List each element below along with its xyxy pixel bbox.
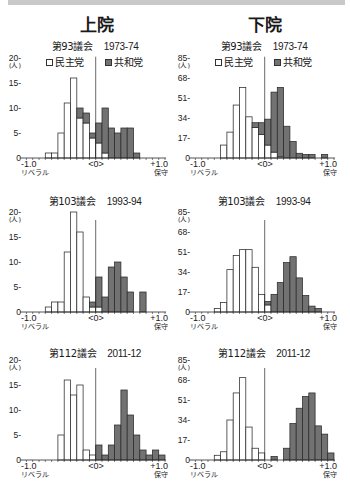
rep-bar <box>96 277 102 307</box>
rep-bar <box>315 426 321 460</box>
dem-bar <box>221 452 227 460</box>
dem-bar <box>52 302 58 312</box>
x-min-label: -1.0 <box>21 462 37 471</box>
dem-bar <box>271 152 277 158</box>
dem-bar <box>45 153 51 158</box>
dem-bar <box>89 455 95 460</box>
y-tick-label: 68- <box>178 73 190 83</box>
dem-bar <box>240 250 246 312</box>
liberal-caption: リベラル <box>21 471 49 479</box>
y-unit-label: (人) <box>9 364 21 372</box>
y-unit-label: (人) <box>9 216 21 224</box>
rep-bar <box>321 154 327 158</box>
rep-bar <box>271 294 277 312</box>
rep-bar <box>108 267 114 312</box>
x-max-label: +1.0 <box>319 462 337 471</box>
rep-bar <box>296 278 302 312</box>
y-tick-label: 34- <box>178 267 190 277</box>
x-max-label: +1.0 <box>150 160 168 169</box>
y-tick-label: 34- <box>178 415 190 425</box>
rep-bar <box>309 393 315 460</box>
dem-bar <box>58 302 64 312</box>
x-max-label: +1.0 <box>319 314 337 323</box>
rep-bar <box>140 450 146 460</box>
senate-heading: 上院 <box>57 14 137 36</box>
dem-bar <box>227 132 233 158</box>
rep-bar <box>127 292 133 312</box>
x-max-label: +1.0 <box>319 160 337 169</box>
dem-bar <box>258 294 264 312</box>
x-center-label: <0> <box>88 462 104 471</box>
conservative-caption: 保守 <box>154 471 168 479</box>
conservative-caption: 保守 <box>323 323 337 331</box>
house-103-chart: 第103議会1993-94 017-34-51-68-85-(人) -1.0 <… <box>169 192 344 337</box>
x-min-label: -1.0 <box>190 314 206 323</box>
y-tick-label: 17- <box>178 435 190 445</box>
rep-bar <box>121 277 127 312</box>
y-tick-label: 5- <box>13 282 21 292</box>
rep-bar <box>108 445 114 460</box>
rep-bar <box>121 128 127 158</box>
rep-bar <box>271 456 277 460</box>
dem-bar <box>221 145 227 158</box>
rep-bar <box>303 154 309 158</box>
dem-bar <box>64 380 70 460</box>
rep-bar <box>127 128 133 158</box>
rep-bar <box>290 424 296 460</box>
dem-bar <box>45 307 51 312</box>
rep-bar <box>115 425 121 460</box>
house-93-chart: 第93議会1973-74 民主党 共和党 017-34-51-68-85-(人)… <box>169 38 344 183</box>
dem-bar <box>64 252 70 312</box>
rep-bar <box>321 434 327 460</box>
dem-bar <box>89 138 95 158</box>
rep-bar <box>265 119 271 145</box>
dem-bar <box>258 134 264 158</box>
senate-103-chart: 第103議会1993-94 05-10-15-20-(人) -1.0 <0> +… <box>0 192 175 337</box>
rep-bar <box>77 108 83 118</box>
rep-bar <box>328 453 334 460</box>
rep-bar <box>96 123 102 143</box>
y-tick-label: 51- <box>178 93 190 103</box>
dem-bar <box>221 303 227 312</box>
conservative-caption: 保守 <box>154 169 168 177</box>
rep-bar <box>284 448 290 460</box>
dem-bar <box>52 153 58 158</box>
rep-bar <box>284 126 290 158</box>
dem-bar <box>246 427 252 460</box>
y-tick-label: 51- <box>178 395 190 405</box>
rep-bar <box>134 435 140 460</box>
rep-bar <box>303 296 309 312</box>
dem-bar <box>96 143 102 158</box>
rep-bar <box>140 292 146 312</box>
rep-bar <box>96 445 102 460</box>
dem-bar <box>77 232 83 312</box>
rep-bar <box>303 396 309 460</box>
dem-bar <box>83 297 89 312</box>
y-tick-label: 5- <box>13 128 21 138</box>
x-max-label: +1.0 <box>150 462 168 471</box>
dem-bar <box>265 305 271 312</box>
rep-bar <box>102 108 108 153</box>
y-unit-label: (人) <box>178 364 190 372</box>
rep-bar <box>146 455 152 460</box>
y-tick-label: 5- <box>13 430 21 440</box>
rep-bar <box>290 142 296 158</box>
rep-bar <box>127 415 133 460</box>
dem-bar <box>214 455 220 460</box>
conservative-caption: 保守 <box>323 169 337 177</box>
liberal-caption: リベラル <box>21 169 49 177</box>
x-center-label: <0> <box>257 462 273 471</box>
dem-bar <box>83 123 89 158</box>
dem-bar <box>252 448 258 460</box>
rep-bar <box>121 390 127 460</box>
dem-bar <box>58 133 64 158</box>
x-center-label: <0> <box>88 314 104 323</box>
rep-bar <box>102 455 108 460</box>
y-tick-label: 15- <box>9 78 21 88</box>
top-strip <box>8 0 345 5</box>
rep-bar <box>252 123 258 128</box>
dem-bar <box>265 145 271 158</box>
x-min-label: -1.0 <box>190 160 206 169</box>
rep-bar <box>89 133 95 138</box>
rep-bar <box>296 153 302 158</box>
